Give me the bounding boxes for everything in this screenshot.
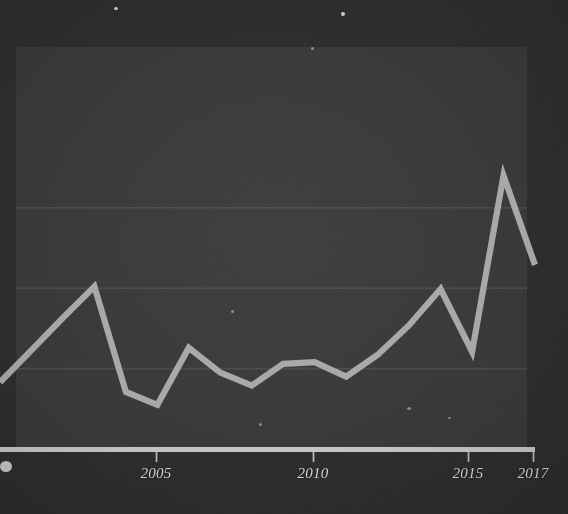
chart-screenshot: 2005 2010 2015 2017 [0, 0, 568, 514]
x-axis-ticks [157, 452, 534, 462]
data-line-series [0, 176, 535, 405]
x-tick-label-2005: 2005 [140, 465, 171, 482]
line-chart [0, 0, 568, 514]
x-tick-label-2015: 2015 [452, 465, 483, 482]
lens-artifact-dot [0, 461, 12, 472]
x-tick-label-2017: 2017 [517, 465, 548, 482]
x-tick-label-2010: 2010 [297, 465, 328, 482]
